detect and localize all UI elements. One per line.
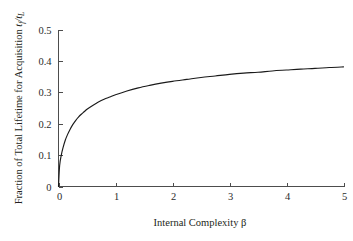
y-tick-label: 0.5 xyxy=(38,25,51,36)
y-tick-label: 0.4 xyxy=(38,56,52,67)
x-tick-label: 5 xyxy=(342,191,347,202)
line-chart: 012345 00.10.20.30.40.5 Internal Complex… xyxy=(0,0,353,241)
y-tick-label: 0 xyxy=(46,182,51,193)
y-tick-label: 0.1 xyxy=(38,150,51,161)
x-tick-label: 2 xyxy=(171,191,176,202)
x-tick-label: 0 xyxy=(57,191,62,202)
chart-background xyxy=(0,0,353,241)
x-axis-title: Internal Complexity β xyxy=(154,217,247,228)
x-tick-label: 1 xyxy=(114,191,119,202)
y-tick-label: 0.2 xyxy=(38,119,51,130)
y-tick-label: 0.3 xyxy=(38,87,51,98)
x-tick-label: 3 xyxy=(228,191,233,202)
chart-figure: 012345 00.10.20.30.40.5 Internal Complex… xyxy=(0,0,353,241)
x-tick-label: 4 xyxy=(285,191,291,202)
